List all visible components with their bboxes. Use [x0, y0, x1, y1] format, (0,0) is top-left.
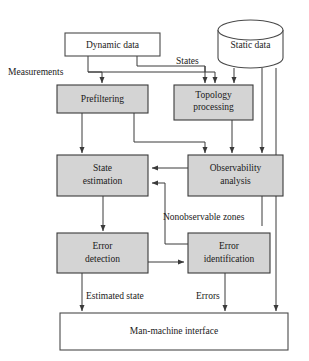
- node-static-data-label: Static data: [231, 40, 272, 50]
- diagram-canvas: Dynamic data Static data Prefiltering To…: [0, 0, 309, 361]
- node-error-identification-label-line2: identification: [204, 254, 255, 264]
- edge-label-nonobservable-zones: Nonobservable zones: [163, 212, 245, 222]
- edge-label-states: States: [176, 56, 199, 66]
- edge-label-measurements: Measurements: [8, 67, 64, 77]
- node-error-detection[interactable]: Error detection: [57, 233, 148, 273]
- node-topology-processing-label-line2: processing: [193, 102, 234, 112]
- node-dynamic-data-label: Dynamic data: [86, 40, 140, 50]
- node-static-data[interactable]: Static data: [218, 20, 283, 68]
- node-topology-processing-label-line1: Topology: [195, 90, 232, 100]
- node-error-detection-label-line2: detection: [85, 254, 120, 264]
- edge-dynamic-to-prefiltering: [88, 56, 102, 83]
- node-observability-analysis[interactable]: Observability analysis: [188, 155, 283, 196]
- node-topology-processing[interactable]: Topology processing: [174, 85, 253, 120]
- node-man-machine-interface-label: Man-machine interface: [130, 326, 218, 336]
- node-error-identification-label-line1: Error: [219, 241, 240, 251]
- node-prefiltering-label: Prefiltering: [81, 94, 125, 104]
- node-error-identification[interactable]: Error identification: [188, 233, 270, 273]
- node-dynamic-data[interactable]: Dynamic data: [65, 33, 160, 56]
- node-observability-analysis-label-line1: Observability: [210, 163, 262, 173]
- node-man-machine-interface[interactable]: Man-machine interface: [60, 313, 288, 350]
- edge-label-estimated-state: Estimated state: [86, 291, 144, 301]
- node-state-estimation-label-line2: estimation: [83, 176, 123, 186]
- node-error-detection-label-line1: Error: [92, 241, 113, 251]
- node-state-estimation-label-line1: State: [93, 163, 112, 173]
- edge-measurements-trunk: [88, 72, 215, 83]
- flowchart-diagram: Dynamic data Static data Prefiltering To…: [0, 0, 309, 361]
- node-state-estimation[interactable]: State estimation: [57, 155, 148, 196]
- node-prefiltering[interactable]: Prefiltering: [57, 85, 148, 113]
- node-observability-analysis-label-line2: analysis: [220, 176, 251, 186]
- edge-label-errors: Errors: [196, 291, 220, 301]
